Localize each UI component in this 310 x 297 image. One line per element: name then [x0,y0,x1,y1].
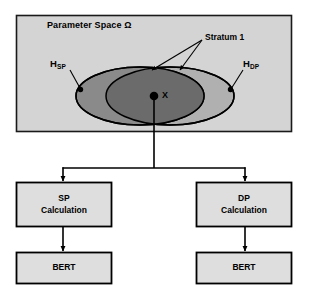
diagram-canvas [0,0,310,297]
sp-calculation-box[interactable] [17,183,112,227]
hdp-endpoint-dot [228,87,233,92]
dp-calculation-box[interactable] [197,183,292,227]
bert-left-box[interactable] [17,253,112,284]
hsp-endpoint-dot [78,87,83,92]
parameter-space-label: Parameter Space Ω [47,20,131,30]
hsp-label: HSP [50,59,66,70]
stratum-label: Stratum 1 [205,33,244,43]
hdp-label: HDP [243,59,259,70]
hdp-label-subscript: DP [250,63,259,70]
sample-point-label: X [162,90,168,100]
hsp-label-base: H [50,58,57,69]
diagram-root: Parameter Space Ω Stratum 1 HSP HDP X SP… [0,0,310,297]
bert-right-box[interactable] [197,253,292,284]
hsp-label-subscript: SP [57,63,66,70]
hdp-label-base: H [243,58,250,69]
